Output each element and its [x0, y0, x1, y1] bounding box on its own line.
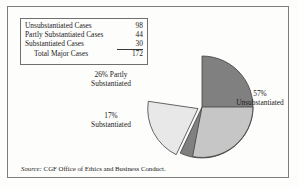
pie-label-unsubstantiated: 57% Unsubstantiated [221, 89, 299, 108]
pie-label-unsubstantiated-line2: Unsubstantiated [221, 98, 299, 107]
table-row-total: Total Major Cases 172 [25, 49, 143, 59]
legend-value-unsubstantiated: 98 [117, 21, 143, 30]
pie-label-substantiated: 17% Substantiated [68, 111, 154, 130]
table-row: Substantiated Cases 30 [25, 39, 143, 49]
pie-label-substantiated-line2: Substantiated [68, 120, 154, 129]
legend-label-unsubstantiated: Unsubstantiated Cases [25, 21, 117, 30]
legend-label-partly-substantiated: Partly Substantiated Cases [25, 30, 117, 39]
pie-chart-svg [147, 55, 257, 160]
source-text: CGF Office of Ethics and Business Conduc… [44, 165, 166, 172]
legend-label-substantiated: Substantiated Cases [25, 39, 117, 49]
legend-value-substantiated: 30 [117, 39, 143, 49]
table-row: Unsubstantiated Cases 98 [25, 21, 143, 30]
table-row: Partly Substantiated Cases 44 [25, 30, 143, 39]
legend-data-table: Unsubstantiated Cases 98 Partly Substant… [20, 18, 148, 65]
pie-label-substantiated-line1: 17% [68, 111, 154, 120]
source-note: Source: CGF Office of Ethics and Busines… [21, 165, 166, 172]
pie-chart [147, 55, 257, 160]
legend-value-total: 172 [117, 49, 143, 59]
legend-table: Unsubstantiated Cases 98 Partly Substant… [25, 21, 143, 59]
legend-value-partly-substantiated: 44 [117, 30, 143, 39]
pie-label-partly-substantiated: 26% Partly Substantiated [68, 70, 154, 89]
legend-label-total: Total Major Cases [25, 49, 117, 59]
pie-label-partly-line1: 26% Partly [68, 70, 154, 79]
figure-container: Unsubstantiated Cases 98 Partly Substant… [0, 0, 299, 188]
pie-label-unsubstantiated-line1: 57% [221, 89, 299, 98]
figure-frame: Unsubstantiated Cases 98 Partly Substant… [7, 6, 289, 178]
pie-label-partly-line2: Substantiated [68, 79, 154, 88]
source-prefix: Source: [21, 165, 42, 172]
